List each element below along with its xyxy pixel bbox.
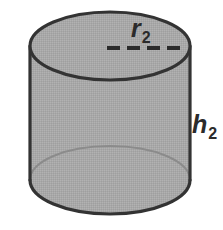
height-label-base: h xyxy=(192,110,207,138)
height-label-subscript: 2 xyxy=(208,125,217,142)
radius-label-subscript: 2 xyxy=(142,29,151,46)
cylinder-figure: r2 h2 xyxy=(0,0,223,230)
radius-label-base: r xyxy=(131,14,141,42)
radius-label: r2 xyxy=(131,16,150,41)
cylinder-drawing xyxy=(0,0,223,230)
height-label: h2 xyxy=(192,112,216,137)
